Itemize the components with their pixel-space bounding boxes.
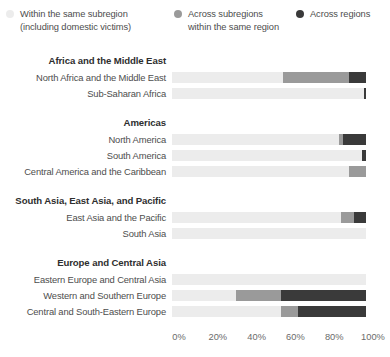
chart-row: Eastern Europe and Central Asia bbox=[0, 272, 390, 286]
bar-segment bbox=[172, 290, 236, 301]
bar-segment bbox=[349, 166, 366, 177]
bar-segment bbox=[349, 72, 366, 83]
bar-segment bbox=[172, 212, 341, 223]
chart-row: Sub-Saharan Africa bbox=[0, 86, 390, 100]
row-label: Western and Southern Europe bbox=[0, 290, 172, 301]
row-label: Central and South-Eastern Europe bbox=[0, 306, 172, 317]
chart-row: Central and South-Eastern Europe bbox=[0, 304, 390, 318]
bar-segment bbox=[298, 306, 366, 317]
group-spacer bbox=[0, 242, 390, 254]
chart-row: South Asia bbox=[0, 226, 390, 240]
x-axis-tick: 40% bbox=[247, 332, 266, 342]
bar-track bbox=[172, 290, 366, 301]
chart-group: AmericasNorth AmericaSouth AmericaCentra… bbox=[0, 114, 390, 178]
plot-area: Africa and the Middle EastNorth Africa a… bbox=[0, 52, 390, 325]
bar-segment bbox=[343, 134, 366, 145]
bar-segment bbox=[172, 134, 339, 145]
group-title: Africa and the Middle East bbox=[0, 52, 172, 70]
x-axis-tick: 80% bbox=[325, 332, 344, 342]
x-axis: 0%20%40%60%80%100% bbox=[172, 332, 390, 348]
row-label: Sub-Saharan Africa bbox=[0, 88, 172, 99]
bar-segment bbox=[281, 290, 366, 301]
x-axis-tick: 0% bbox=[172, 332, 185, 342]
legend-dot-across-regions bbox=[296, 10, 304, 18]
group-title: Americas bbox=[0, 114, 172, 132]
row-label: Eastern Europe and Central Asia bbox=[0, 274, 172, 285]
row-label: East Asia and the Pacific bbox=[0, 212, 172, 223]
bar-segment bbox=[172, 306, 281, 317]
chart-row: North America bbox=[0, 132, 390, 146]
x-axis-tick: 100% bbox=[361, 332, 385, 342]
legend-dot-across-subregions bbox=[174, 10, 182, 18]
legend-item-within-subregion: Within the same subregion (including dom… bbox=[6, 8, 174, 33]
bar-segment bbox=[362, 150, 366, 161]
bar-track bbox=[172, 274, 366, 285]
x-axis-tick: 20% bbox=[208, 332, 227, 342]
legend-item-across-regions: Across regions bbox=[296, 8, 390, 21]
chart-row: Western and Southern Europe bbox=[0, 288, 390, 302]
group-spacer bbox=[0, 180, 390, 192]
bar-segment bbox=[236, 290, 281, 301]
bar-track bbox=[172, 228, 366, 239]
row-label: South Asia bbox=[0, 228, 172, 239]
bar-segment bbox=[354, 212, 366, 223]
row-label: North Africa and the Middle East bbox=[0, 72, 172, 83]
legend-label-within-subregion: Within the same subregion (including dom… bbox=[20, 8, 131, 33]
chart-row: North Africa and the Middle East bbox=[0, 70, 390, 84]
legend-dot-within-subregion bbox=[6, 10, 14, 18]
bar-track bbox=[172, 134, 366, 145]
chart-row: South America bbox=[0, 148, 390, 162]
bar-track bbox=[172, 306, 366, 317]
bar-track bbox=[172, 212, 366, 223]
chart-group: Europe and Central AsiaEastern Europe an… bbox=[0, 254, 390, 318]
row-label: South America bbox=[0, 150, 172, 161]
chart-row: Central America and the Caribbean bbox=[0, 164, 390, 178]
stacked-bar-chart: Within the same subregion (including dom… bbox=[0, 0, 390, 357]
chart-group: South Asia, East Asia, and PacificEast A… bbox=[0, 192, 390, 240]
bar-segment bbox=[283, 72, 349, 83]
bar-segment bbox=[172, 150, 362, 161]
bar-segment bbox=[172, 88, 364, 99]
x-axis-tick: 60% bbox=[286, 332, 305, 342]
bar-segment bbox=[281, 306, 298, 317]
bar-segment bbox=[364, 88, 366, 99]
row-label: Central America and the Caribbean bbox=[0, 166, 172, 177]
bar-track bbox=[172, 150, 366, 161]
legend-label-across-regions: Across regions bbox=[310, 8, 370, 21]
bar-segment bbox=[341, 212, 355, 223]
chart-row: East Asia and the Pacific bbox=[0, 210, 390, 224]
bar-track bbox=[172, 88, 366, 99]
group-title: South Asia, East Asia, and Pacific bbox=[0, 192, 172, 210]
group-title: Europe and Central Asia bbox=[0, 254, 172, 272]
bar-segment bbox=[172, 72, 283, 83]
bar-segment bbox=[172, 274, 366, 285]
row-label: North America bbox=[0, 134, 172, 145]
chart-legend: Within the same subregion (including dom… bbox=[0, 8, 390, 48]
bar-segment bbox=[172, 228, 366, 239]
legend-label-across-subregions: Across subregions within the same region bbox=[188, 8, 279, 33]
bar-track bbox=[172, 166, 366, 177]
group-spacer bbox=[0, 102, 390, 114]
legend-item-across-subregions: Across subregions within the same region bbox=[174, 8, 296, 33]
bar-segment bbox=[172, 166, 349, 177]
bar-track bbox=[172, 72, 366, 83]
chart-group: Africa and the Middle EastNorth Africa a… bbox=[0, 52, 390, 100]
